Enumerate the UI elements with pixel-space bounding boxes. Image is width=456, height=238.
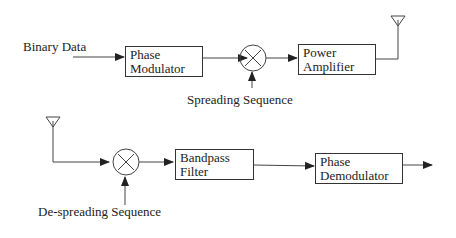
- phase-modulator-block: Phase Modulator: [125, 46, 203, 77]
- power-amplifier-block: Power Amplifier: [298, 44, 376, 75]
- block-line: Modulator: [130, 62, 198, 76]
- block-diagram-lines: [0, 0, 456, 238]
- spreading-sequence-label: Spreading Sequence: [187, 93, 293, 107]
- block-line: Amplifier: [303, 60, 371, 74]
- block-line: Phase: [320, 155, 398, 169]
- despreading-sequence-label: De-spreading Sequence: [38, 205, 161, 219]
- binary-data-label: Binary Data: [23, 40, 86, 54]
- block-line: Bandpass: [180, 151, 249, 165]
- block-line: Demodulator: [320, 169, 398, 183]
- block-line: Power: [303, 46, 371, 60]
- block-line: Filter: [180, 165, 249, 179]
- bandpass-filter-block: Bandpass Filter: [175, 149, 254, 180]
- block-line: Phase: [130, 48, 198, 62]
- phase-demodulator-block: Phase Demodulator: [315, 153, 403, 184]
